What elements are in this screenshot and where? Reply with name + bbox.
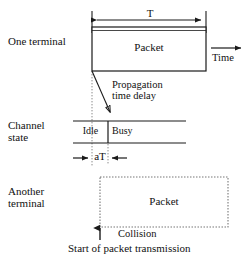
another-terminal-packet-label: Packet — [100, 196, 228, 208]
row-label-channel-state: Channel state — [8, 120, 70, 144]
time-axis-label: Time — [212, 52, 250, 63]
start-of-transmission-caption: Start of packet transmission — [68, 243, 250, 255]
channel-state-busy-label: Busy — [112, 126, 152, 137]
packet-collision-timing-diagram: One terminal Packet T Time Propagation t… — [0, 0, 250, 263]
collision-label: Collision — [118, 228, 198, 239]
propagation-delay-arrow — [92, 71, 110, 112]
propagation-delay-value-label: aT — [89, 151, 111, 163]
channel-state-idle-label: Idle — [73, 126, 108, 137]
row-label-one-terminal: One terminal — [8, 36, 88, 48]
packet-duration-label: T — [135, 8, 165, 20]
row-label-another-terminal: Another terminal — [8, 186, 78, 210]
one-terminal-packet-label: Packet — [92, 42, 206, 54]
propagation-delay-annotation: Propagation time delay — [112, 79, 212, 102]
